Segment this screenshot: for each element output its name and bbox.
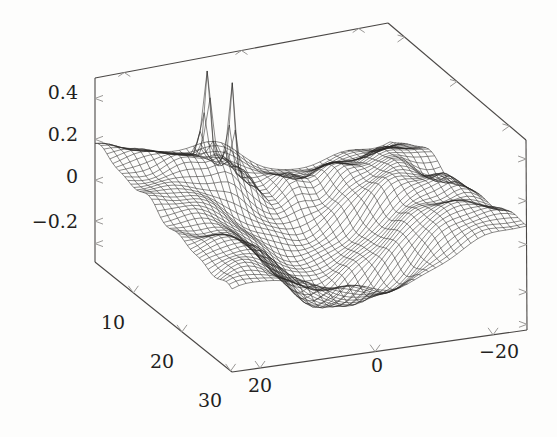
tick-right-bottom [488, 328, 493, 335]
tick-right-vertical [519, 324, 527, 327]
tick-z-major [95, 221, 103, 224]
z-axis-tick-label: −0.2 [32, 210, 78, 232]
tick-back-top [242, 51, 248, 55]
tick-z-minor [95, 244, 103, 247]
left-axis-tick-label: 10 [101, 311, 125, 333]
mesh-line-u [202, 200, 497, 306]
tick-z-major [95, 177, 103, 180]
tick-back-top [359, 29, 365, 33]
z-axis-tick-label: 0 [66, 165, 78, 187]
tick-right-vertical [519, 245, 527, 248]
mesh-line-v [383, 144, 520, 227]
z-axis-tick-label: 0.4 [48, 81, 78, 103]
z-axis-tick-label: 0.2 [48, 123, 78, 145]
tick-back-top [124, 73, 130, 77]
tick-left-bottom [231, 364, 236, 371]
mesh-line-u [119, 98, 414, 191]
axis-tick-labels: 0.40.20−0.2102030200−20 [32, 81, 519, 411]
tick-right-bottom [370, 345, 375, 352]
axis-right-vertical-edge [526, 140, 527, 330]
tick-right-vertical [519, 242, 527, 245]
tick-z-major [95, 218, 103, 221]
tick-z-minor [95, 241, 103, 244]
tick-z-major [95, 139, 103, 142]
plot-canvas: 0.40.20−0.2102030200−20 [0, 0, 557, 437]
tick-right-vertical [518, 201, 526, 204]
left-axis-tick-label: 20 [150, 350, 174, 372]
tick-right-top [450, 82, 457, 87]
surface-plot-figure: 0.40.20−0.2102030200−20 [0, 0, 557, 437]
right-axis-tick-label: 20 [248, 374, 272, 396]
tick-z-major [95, 98, 103, 101]
surface-mesh [95, 71, 527, 308]
tick-left-bottom [182, 325, 187, 332]
mesh-line-v [362, 147, 499, 231]
tick-right-vertical [518, 156, 526, 159]
tick-left-bottom [133, 286, 138, 293]
mesh-line-u [208, 204, 503, 305]
right-axis-tick-label: 0 [371, 354, 383, 376]
mesh-line-v [243, 156, 380, 306]
tick-z-major [95, 136, 103, 139]
mesh-line-u [196, 199, 491, 307]
mesh-line-v [348, 148, 485, 235]
tick-z-major [95, 180, 103, 183]
tick-right-vertical [519, 289, 527, 292]
tick-right-vertical [519, 321, 527, 324]
tick-right-bottom [255, 361, 260, 368]
tick-right-top [398, 37, 405, 42]
tick-right-vertical [519, 292, 527, 295]
mesh-line-u [232, 226, 527, 290]
mesh-line-u [169, 173, 464, 269]
tick-right-top [502, 126, 509, 131]
mesh-line-u [143, 156, 438, 224]
left-axis-tick-label: 30 [198, 389, 222, 411]
right-axis-tick-label: −20 [479, 340, 519, 362]
tick-z-major [95, 95, 103, 98]
mesh-line-v [278, 169, 415, 284]
mesh-line-u [205, 202, 500, 307]
tick-right-vertical [518, 159, 526, 162]
tick-right-vertical [518, 198, 526, 201]
